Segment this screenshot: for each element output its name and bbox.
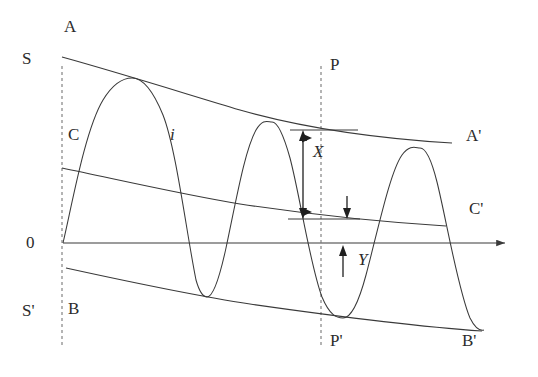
technical-diagram: A S C i P A' X C' 0 Y S' B P' B'	[0, 0, 538, 377]
label-s-prime: S'	[22, 302, 35, 319]
label-a-prime: A'	[466, 127, 481, 144]
x-measure-arrowhead-top	[299, 130, 307, 141]
label-a: A	[64, 18, 76, 35]
label-c-prime: C'	[469, 200, 483, 217]
label-b-prime: B'	[462, 332, 476, 349]
label-y-measure: Y	[358, 251, 367, 268]
label-c: C	[68, 126, 79, 143]
label-s: S	[22, 50, 31, 67]
y-measure-arrowhead	[339, 245, 347, 256]
label-x-measure: X	[313, 143, 323, 160]
label-origin: 0	[26, 234, 35, 251]
oscillation-wave-i	[63, 78, 484, 330]
label-p: P	[330, 56, 339, 73]
upper-envelope-curve	[62, 57, 452, 143]
label-p-prime: P'	[330, 332, 343, 349]
label-b: B	[68, 300, 79, 317]
diagram-canvas	[0, 0, 538, 377]
label-i-wave: i	[170, 126, 175, 143]
middle-envelope-curve	[62, 168, 446, 226]
lower-envelope-curve	[66, 268, 482, 331]
